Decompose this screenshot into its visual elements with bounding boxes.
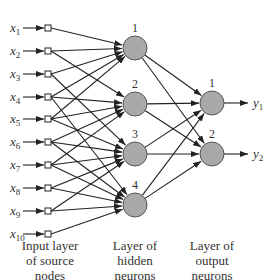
edge-x1-h1 bbox=[51, 28, 122, 45]
hidden-neuron-3 bbox=[123, 142, 147, 166]
input-label-x2: x2 bbox=[9, 43, 20, 60]
edge-x8-h4 bbox=[51, 188, 122, 202]
edge-x7-h4 bbox=[51, 165, 123, 199]
input-label-x1: x1 bbox=[9, 20, 20, 37]
caption-line: of source bbox=[10, 253, 90, 268]
hidden-neuron-number: 4 bbox=[132, 178, 138, 192]
source-node-8 bbox=[45, 185, 51, 191]
source-node-4 bbox=[45, 94, 51, 100]
edge-h1-o1 bbox=[145, 55, 202, 95]
edge-x4-h2 bbox=[51, 97, 122, 103]
input-label-x7: x7 bbox=[9, 157, 21, 174]
edge-x3-h1 bbox=[51, 52, 123, 74]
input-label-x6: x6 bbox=[9, 134, 21, 151]
output-neuron-1 bbox=[200, 91, 224, 115]
source-node-7 bbox=[45, 162, 51, 168]
source-node-9 bbox=[45, 208, 51, 214]
edge-x10-h4 bbox=[51, 209, 123, 234]
caption-line: hidden bbox=[95, 253, 175, 268]
input-label-x8: x8 bbox=[9, 180, 21, 197]
caption-line: Layer of bbox=[95, 238, 175, 253]
output-neuron-2 bbox=[200, 142, 224, 166]
edge-x5-h3 bbox=[51, 119, 123, 149]
caption-line: nodes bbox=[10, 268, 90, 280]
source-node-10 bbox=[45, 231, 51, 237]
hidden-layer: 1234 bbox=[123, 21, 147, 217]
input-label-x9: x9 bbox=[9, 203, 21, 220]
input-label-x5: x5 bbox=[9, 111, 21, 128]
input-to-hidden-connections bbox=[51, 28, 127, 234]
caption-line: neurons bbox=[95, 268, 175, 280]
hidden-to-output-connections bbox=[142, 55, 204, 198]
caption-line: Input layer bbox=[10, 238, 90, 253]
output-label-y1: y1 bbox=[251, 95, 263, 112]
caption-hidden-layer: Layer of hidden neurons bbox=[95, 238, 175, 280]
edge-x9-h3 bbox=[51, 161, 124, 211]
caption-output-layer: Layer of output neurons bbox=[172, 238, 252, 280]
source-node-2 bbox=[45, 48, 51, 54]
caption-input-layer: Input layer of source nodes bbox=[10, 238, 90, 280]
input-label-x4: x4 bbox=[9, 89, 21, 106]
edge-h1-o2 bbox=[142, 58, 204, 144]
hidden-neuron-number: 2 bbox=[132, 77, 138, 91]
source-node-6 bbox=[45, 139, 51, 145]
edge-x6-h2 bbox=[51, 109, 123, 142]
input-layer: x1x2x3x4x5x6x7x8x9x10 bbox=[9, 20, 51, 243]
edge-x2-h1 bbox=[51, 48, 122, 51]
output-neuron-number: 2 bbox=[209, 127, 215, 141]
hidden-neuron-1 bbox=[123, 36, 147, 60]
source-node-3 bbox=[45, 71, 51, 77]
input-label-x3: x3 bbox=[9, 66, 21, 83]
caption-line: neurons bbox=[172, 268, 252, 280]
hidden-neuron-number: 3 bbox=[132, 127, 138, 141]
caption-line: Layer of bbox=[172, 238, 252, 253]
hidden-neuron-2 bbox=[123, 92, 147, 116]
source-node-5 bbox=[45, 116, 51, 122]
output-neuron-number: 1 bbox=[209, 76, 215, 90]
edge-x9-h4 bbox=[51, 206, 122, 211]
caption-line: output bbox=[172, 253, 252, 268]
edge-h2-o1 bbox=[147, 103, 199, 104]
hidden-neuron-4 bbox=[123, 193, 147, 217]
output-label-y2: y2 bbox=[251, 146, 263, 163]
edge-x6-h4 bbox=[51, 142, 125, 197]
hidden-neuron-number: 1 bbox=[132, 21, 138, 35]
output-layer: 1y12y2 bbox=[200, 76, 263, 166]
source-node-1 bbox=[45, 25, 51, 31]
